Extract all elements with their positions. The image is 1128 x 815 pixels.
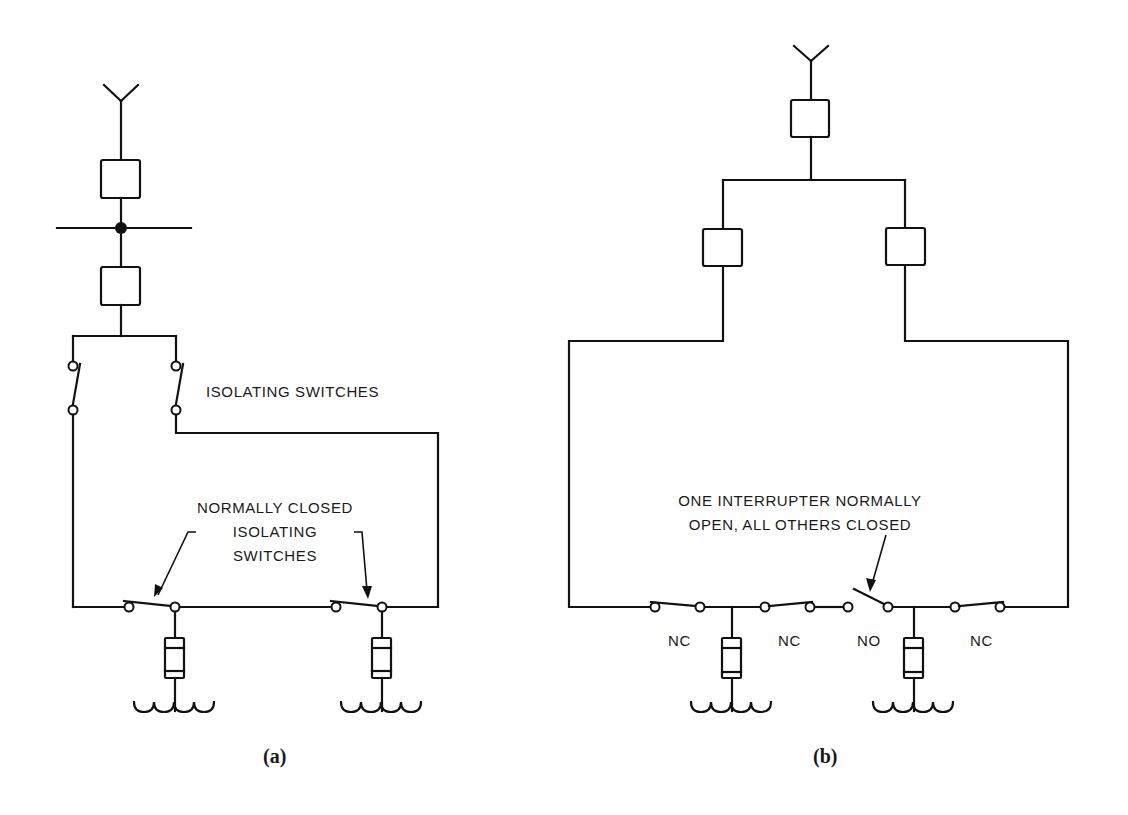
- normally-closed-switch-icon: [651, 602, 705, 612]
- caption-b: (b): [813, 745, 837, 768]
- normally-closed-switch-icon: [761, 602, 815, 612]
- isolating-switch-icon: [69, 362, 81, 415]
- normally-closed-switch-icon: [331, 601, 387, 612]
- interrupter-note-line2: OPEN, ALL OTHERS CLOSED: [630, 514, 970, 535]
- switch-label-nc-1: NC: [668, 630, 691, 651]
- feeder-antenna-icon: [104, 85, 138, 160]
- load-fuse-icon: [722, 607, 741, 711]
- isolating-switches-label: ISOLATING SWITCHES: [206, 381, 379, 402]
- normally-closed-label-line1: NORMALLY CLOSED: [175, 497, 375, 518]
- bus-node-icon: [115, 222, 127, 234]
- normally-closed-switch-icon: [951, 602, 1005, 612]
- circuit-breaker-icon: [886, 228, 925, 265]
- pointer-arrow-icon: [866, 535, 886, 592]
- circuit-breaker-icon: [101, 267, 140, 305]
- switch-label-no: NO: [857, 630, 881, 651]
- switch-label-nc-4: NC: [970, 630, 993, 651]
- load-fuse-icon: [165, 612, 184, 711]
- feeder-antenna-icon: [794, 46, 828, 100]
- isolating-switch-icon: [172, 362, 184, 415]
- load-fuse-icon: [904, 607, 923, 711]
- ring-main-diagram: [0, 0, 1128, 815]
- switch-label-nc-2: NC: [778, 630, 801, 651]
- normally-closed-switch-icon: [124, 601, 180, 612]
- normally-open-switch-icon: [844, 589, 893, 612]
- caption-a: (a): [263, 745, 286, 768]
- normally-closed-label-line3: SWITCHES: [175, 545, 375, 566]
- circuit-breaker-icon: [791, 100, 829, 137]
- normally-closed-label-line2: ISOLATING: [175, 521, 375, 542]
- load-fuse-icon: [372, 612, 391, 711]
- interrupter-note-line1: ONE INTERRUPTER NORMALLY: [630, 490, 970, 511]
- circuit-breaker-icon: [101, 160, 140, 198]
- panel-b: [569, 46, 1068, 712]
- circuit-breaker-icon: [703, 229, 742, 266]
